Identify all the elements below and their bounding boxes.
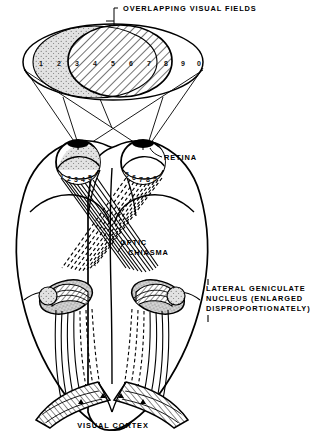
label-lgn-line3: DISPROPORTIONATELY) <box>206 304 311 313</box>
label-retina: RETINA <box>164 153 197 162</box>
field-digit: 6 <box>129 60 133 67</box>
label-lgn-block: LATERAL GENICULATE NUCLEUS (ENLARGED DIS… <box>206 279 311 322</box>
retina-digit: 7 <box>139 176 143 183</box>
label-optic-line2: CHIASMA <box>128 248 169 257</box>
field-digit: 1 <box>39 60 43 67</box>
label-lgn-line1: LATERAL GENICULATE <box>206 284 306 293</box>
field-digit: 4 <box>93 60 97 67</box>
retina-digit: 2 <box>67 175 71 182</box>
retina-digit: 4 <box>81 176 85 183</box>
retina-digit: 6 <box>132 174 136 181</box>
label-overlapping-visual-fields: OVERLAPPING VISUAL FIELDS <box>123 4 257 13</box>
retina-digit: 3 <box>74 176 78 183</box>
visual-field-group: 1 2 3 4 5 6 7 8 9 0 <box>23 24 203 100</box>
field-digit: 5 <box>111 60 115 67</box>
label-lgn-line2: NUCLEUS (ENLARGED <box>206 294 303 303</box>
field-digit: 2 <box>57 60 61 67</box>
label-visual-cortex: VISUAL CORTEX <box>77 421 149 430</box>
figure-canvas: OVERLAPPING VISUAL FIELDS 1 2 3 4 <box>0 0 312 436</box>
retina-digit: 8 <box>146 176 150 183</box>
field-digit: 0 <box>197 60 201 67</box>
field-digit: 7 <box>147 60 151 67</box>
field-digit: 3 <box>75 60 79 67</box>
visual-pathway-diagram: OVERLAPPING VISUAL FIELDS 1 2 3 4 <box>0 0 312 436</box>
field-digit: 9 <box>181 60 185 67</box>
lgn-left-cap <box>39 287 57 305</box>
field-digit: 8 <box>164 60 168 67</box>
lgn-right-cap <box>167 287 185 305</box>
